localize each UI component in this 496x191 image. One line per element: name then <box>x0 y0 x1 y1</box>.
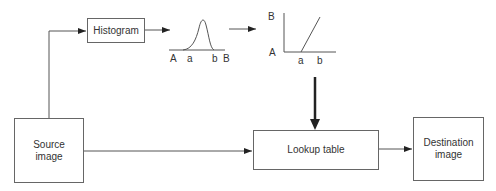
map-label-b: b <box>317 56 323 66</box>
hist-label-B: B <box>223 54 230 64</box>
edge-mapping-to-lookup <box>310 77 320 130</box>
source-label-line1: Source <box>33 139 65 151</box>
lookup-table-node: Lookup table <box>253 130 379 170</box>
histogram-node: Histogram <box>87 18 145 43</box>
histogram-label: Histogram <box>93 25 139 37</box>
source-label-line2: image <box>35 151 62 163</box>
edge-source-to-histogram <box>49 31 86 118</box>
lookup-label: Lookup table <box>287 144 344 156</box>
source-image-node: Source image <box>14 118 84 183</box>
destination-label-line2: image <box>435 149 462 161</box>
hist-label-a: a <box>187 54 193 64</box>
hist-label-A: A <box>170 54 177 64</box>
map-label-a: a <box>298 56 304 66</box>
histogram-curve-plot <box>169 20 225 50</box>
map-label-A: A <box>269 48 276 58</box>
hist-label-b: b <box>212 54 218 64</box>
mapping-function-plot <box>284 13 336 52</box>
destination-image-node: Destination image <box>413 117 484 181</box>
map-label-B: B <box>268 12 275 22</box>
destination-label-line1: Destination <box>423 137 473 149</box>
